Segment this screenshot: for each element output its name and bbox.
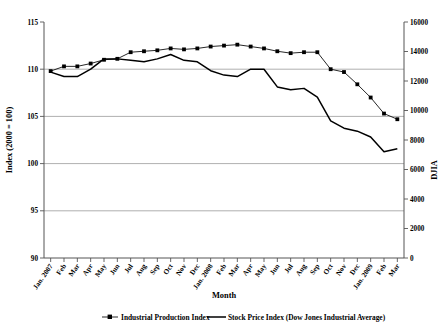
series-line-industrial-production [51,45,398,120]
data-point-marker [302,50,306,54]
x-tick-label: Mar [387,262,402,278]
x-tick-label: Apr [81,262,95,277]
y-tick-label-left: 115 [28,19,39,27]
data-point-marker [49,69,53,73]
x-tick-label: Nov [334,262,348,277]
data-point-marker [395,117,399,121]
grid-lines [44,69,404,211]
y-tick-label-left: 105 [27,113,38,121]
y-tick-label-right: 10000 [410,107,428,115]
x-axis-title: Month [212,291,237,300]
y-tick-label-left: 95 [31,207,39,215]
legend-label-dj: Stock Price Index (Dow Jones Industrial … [228,313,386,322]
chart-figure: 9095100105110115 02000400060008000100001… [0,0,446,328]
data-point-marker [209,45,213,49]
x-tick-label: Aug [294,262,308,277]
x-tick-label: Sep [149,263,162,277]
y-axis-left-ticks: 9095100105110115 [27,19,44,263]
data-point-marker [382,112,386,116]
y-tick-label-left: 110 [28,66,39,74]
x-tick-label: Jan. 2007 [32,262,56,291]
data-point-marker [142,49,146,53]
y-tick-label-right: 4000 [410,196,425,204]
y-tick-label-right: 6000 [410,166,425,174]
data-point-marker [369,96,373,100]
y-axis-right-title: DJIA [430,160,439,180]
x-tick-label: Feb [215,263,228,277]
y-tick-label-right: 14000 [410,48,428,56]
data-point-marker [169,47,173,51]
legend: Industrial Production Index Stock Price … [102,313,386,322]
y-axis-right-ticks: 0200040006000800010000120001400016000 [404,19,428,263]
data-point-marker [102,58,106,62]
y-tick-label-right: 2000 [410,225,425,233]
x-tick-label: Nov [174,262,188,277]
y-tick-label-left: 100 [27,160,38,168]
x-tick-label: May [254,262,269,278]
legend-item-stock-price-index: Stock Price Index (Dow Jones Industrial … [207,313,386,322]
x-tick-label: Apr [241,262,255,277]
x-tick-label: Feb [55,263,68,277]
y-tick-label-right: 16000 [410,19,428,27]
y-tick-label-right: 8000 [410,137,425,145]
data-point-marker [249,45,253,49]
y-axis-left-title: Index (2000 = 100) [5,107,14,174]
x-tick-label: Mar [67,262,82,278]
data-point-marker [235,43,239,47]
x-axis-tick-labels: Jan. 2007FebMarAprMayJunJulAugSepOctNovD… [32,262,402,291]
data-point-marker [182,47,186,51]
series-industrial-production-index [49,43,399,121]
data-point-marker [62,64,66,68]
x-tick-label: Jun [108,263,121,277]
data-point-marker [262,47,266,51]
legend-item-industrial-production-index: Industrial Production Index [102,313,210,322]
y-tick-label-right: 12000 [410,78,428,86]
data-point-marker [342,70,346,74]
y-tick-label-left: 90 [31,255,39,263]
data-point-marker [75,64,79,68]
data-point-marker [129,50,133,54]
x-tick-label: May [94,262,109,278]
data-point-marker [355,82,359,86]
x-axis-ticks [51,258,398,262]
chart-svg: 9095100105110115 02000400060008000100001… [0,0,446,328]
x-tick-label: Oct [322,262,335,276]
x-tick-label: Sep [309,263,322,277]
x-tick-label: Feb [375,263,388,277]
y-tick-label-right: 0 [410,255,414,263]
data-point-marker [115,57,119,61]
plot-border [44,22,404,258]
x-tick-label: Jun [268,263,281,277]
data-point-marker [289,51,293,55]
legend-square-marker-icon [108,315,112,319]
data-point-marker [89,62,93,66]
data-point-marker [155,48,159,52]
data-point-marker [315,50,319,54]
x-tick-label: Oct [162,262,175,276]
data-point-marker [329,67,333,71]
data-point-marker [275,49,279,53]
x-tick-label: Mar [227,262,242,278]
data-point-marker [195,47,199,51]
x-tick-label: Aug [134,262,148,277]
legend-label-ip: Industrial Production Index [121,313,210,322]
data-point-marker [222,44,226,48]
